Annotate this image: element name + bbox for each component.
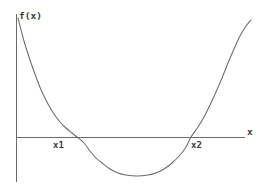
function-plot-figure: f(x) x x1 x2 — [0, 0, 267, 192]
plot-canvas — [0, 0, 267, 192]
root-label-x2: x2 — [191, 141, 202, 150]
y-axis-label: f(x) — [19, 11, 42, 21]
root-label-x1: x1 — [53, 141, 64, 150]
x-axis-label: x — [247, 127, 253, 137]
plot-background — [0, 0, 267, 192]
